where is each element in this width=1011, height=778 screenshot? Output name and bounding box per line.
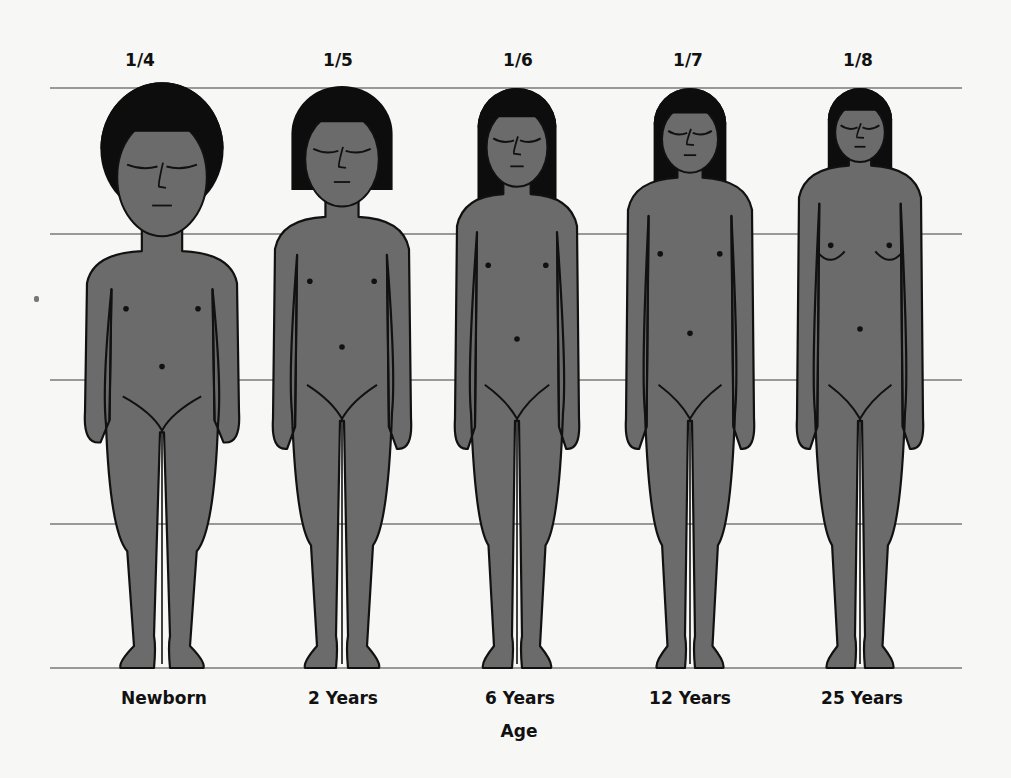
- age-label-6-years: 6 Years: [485, 688, 555, 708]
- figure-newborn: [85, 82, 239, 668]
- nipple-dot: [307, 278, 313, 284]
- navel-dot: [857, 326, 863, 332]
- nipple-dot: [543, 262, 549, 268]
- face-25-years: [835, 103, 885, 162]
- face-6-years: [487, 108, 548, 187]
- nipple-dot: [195, 306, 201, 312]
- face-12-years: [662, 105, 718, 172]
- ratio-label-2-years: 1/5: [323, 50, 353, 70]
- navel-dot: [159, 364, 165, 370]
- navel-dot: [514, 336, 520, 342]
- figure-12-years: [626, 88, 754, 668]
- nipple-dot: [657, 251, 663, 257]
- navel-dot: [339, 344, 345, 350]
- scan-speck: [34, 296, 39, 302]
- ratio-label-12-years: 1/7: [673, 50, 703, 70]
- face-newborn: [117, 118, 207, 236]
- nipple-dot: [886, 243, 892, 249]
- nipple-dot: [485, 262, 491, 268]
- figures-illustration: [0, 0, 1011, 778]
- nipple-dot: [828, 243, 834, 249]
- proportions-diagram: 1/4 1/5 1/6 1/7 1/8 Newborn 2 Years 6 Ye…: [0, 0, 1011, 778]
- ratio-label-25-years: 1/8: [843, 50, 873, 70]
- ratio-label-6-years: 1/6: [503, 50, 533, 70]
- ratio-label-newborn: 1/4: [125, 50, 155, 70]
- nipple-dot: [717, 251, 723, 257]
- face-2-years: [305, 112, 379, 206]
- navel-dot: [687, 331, 693, 337]
- axis-title-age: Age: [501, 721, 538, 741]
- nipple-dot: [371, 278, 377, 284]
- figure-2-years: [273, 86, 411, 668]
- age-label-newborn: Newborn: [121, 688, 207, 708]
- figure-6-years: [455, 88, 579, 668]
- age-label-2-years: 2 Years: [308, 688, 378, 708]
- age-label-25-years: 25 Years: [821, 688, 903, 708]
- nipple-dot: [123, 306, 129, 312]
- age-label-12-years: 12 Years: [649, 688, 731, 708]
- figure-25-years: [797, 88, 923, 668]
